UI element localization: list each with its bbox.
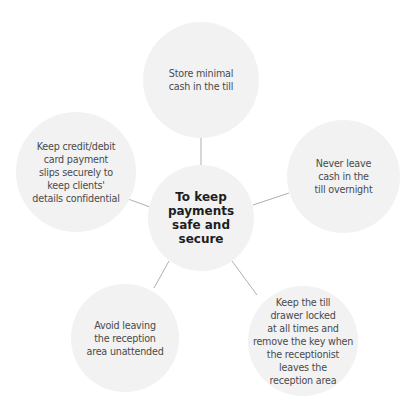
node-top-label: Store minimal cash in the till xyxy=(169,67,233,93)
node-bottom-left: Avoid leaving the reception area unatten… xyxy=(71,284,179,392)
node-right-label: Never leave cash in the till overnight xyxy=(315,157,373,196)
node-bottom-left-label: Avoid leaving the reception area unatten… xyxy=(86,319,163,358)
node-bottom-right-label: Keep the till drawer locked at all times… xyxy=(253,296,353,387)
center-label: To keep payments safe and secure xyxy=(168,190,234,246)
node-center: To keep payments safe and secure xyxy=(148,165,254,271)
node-bottom-right: Keep the till drawer locked at all times… xyxy=(248,286,358,396)
connector-bottom-left xyxy=(154,261,169,288)
connector-bottom-right xyxy=(232,261,257,295)
node-top: Store minimal cash in the till xyxy=(143,22,259,138)
node-left-label: Keep credit/debit card payment slips sec… xyxy=(32,140,119,205)
node-right: Never leave cash in the till overnight xyxy=(287,120,400,233)
node-left: Keep credit/debit card payment slips sec… xyxy=(16,112,136,232)
connector-right xyxy=(253,193,289,205)
connector-left xyxy=(128,199,150,207)
